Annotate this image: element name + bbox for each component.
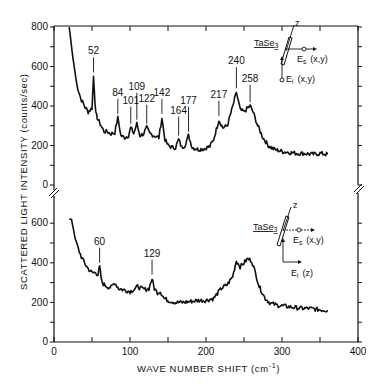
x-axis-title-main: WAVE NUMBER SHIFT (cm xyxy=(137,363,269,374)
scattered-field-label: Es(x,y) xyxy=(293,235,324,246)
sample-label: TaSe3 xyxy=(253,222,278,233)
y-axis-title: SCATTERED LIGHT INTENSITY (counts/sec) xyxy=(18,73,29,290)
polarization-circle-icon xyxy=(297,228,301,232)
peak-label: 60 xyxy=(94,236,106,247)
axis-ticks xyxy=(50,26,362,342)
x-tick-label: 100 xyxy=(122,346,139,357)
peak-label: 217 xyxy=(211,89,228,100)
x-tick-label: 0 xyxy=(51,346,57,357)
x-tick-label: 400 xyxy=(350,346,367,357)
incident-field-label: Ei(z) xyxy=(291,268,313,279)
polarization-circle-icon xyxy=(280,78,284,82)
x-tick-label: 200 xyxy=(198,346,215,357)
x-axis-title-close: ) xyxy=(276,363,280,374)
top-polarization-inset: TaSe3 z Es(x,y) Ei(x,y) xyxy=(254,18,328,85)
bottom-spectrum-line xyxy=(69,219,327,312)
bottom-polarization-inset: TaSe3 z Es(x,y) Ei(z) xyxy=(253,200,324,279)
y-tick-label: 200 xyxy=(31,297,48,308)
y-tick-label: 800 xyxy=(31,21,48,32)
incident-field-label: Ei(x,y) xyxy=(286,74,315,85)
raman-spectrum-chart: 800 600 400 200 0 600 400 200 0 0 100 20… xyxy=(0,0,383,389)
peak-label: 142 xyxy=(154,87,171,98)
z-axis-arrow-icon xyxy=(286,25,294,51)
y-tick-label: 600 xyxy=(31,61,48,72)
bottom-y-tick-labels: 600 400 200 0 xyxy=(31,217,48,347)
peak-label: 258 xyxy=(242,73,259,84)
polarization-circle-icon xyxy=(302,47,306,51)
z-axis-label: z xyxy=(293,200,298,210)
crystal-icon xyxy=(281,37,292,65)
x-axis-title-sup: -1 xyxy=(269,362,276,369)
y-tick-label: 400 xyxy=(31,100,48,111)
scattered-field-label: Es(x,y) xyxy=(297,54,328,65)
x-tick-label: 300 xyxy=(274,346,291,357)
bottom-peak-labels: 60129 xyxy=(94,236,161,275)
peak-label: 164 xyxy=(170,105,187,116)
y-tick-label: 600 xyxy=(31,217,48,228)
top-y-tick-labels: 800 600 400 200 0 xyxy=(31,21,48,190)
x-axis-title: WAVE NUMBER SHIFT (cm-1) xyxy=(137,362,280,374)
sample-label: TaSe3 xyxy=(254,38,279,49)
peak-label: 109 xyxy=(128,81,145,92)
x-tick-labels: 0 100 200 300 400 xyxy=(51,346,367,357)
y-tick-label: 0 xyxy=(42,336,48,347)
peak-label: 129 xyxy=(144,248,161,259)
y-tick-label: 400 xyxy=(31,257,48,268)
peak-label: 52 xyxy=(88,45,100,56)
peak-label: 177 xyxy=(180,95,197,106)
z-axis-arrow-icon xyxy=(283,207,291,231)
y-tick-label: 200 xyxy=(31,140,48,151)
top-peak-labels: 5284101109122142164177217240258 xyxy=(88,45,259,135)
z-axis-label: z xyxy=(295,18,300,28)
y-tick-label: 0 xyxy=(42,179,48,190)
peak-label: 240 xyxy=(228,55,245,66)
